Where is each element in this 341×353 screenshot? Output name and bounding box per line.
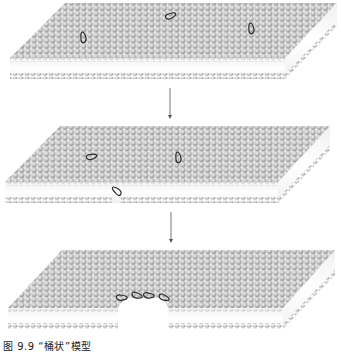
upper-leaflet-front bbox=[10, 58, 285, 62]
lower-leaflet-front bbox=[10, 73, 285, 79]
membrane-panel-stage-2 bbox=[5, 126, 330, 203]
arrow-down-icon bbox=[168, 88, 172, 119]
membrane-panel-stage-1 bbox=[10, 3, 337, 79]
lower-leaflet-front-right bbox=[120, 197, 278, 203]
lower-leaflet-front-right bbox=[166, 323, 283, 329]
figure-caption: 图 9.9 “桶状”模型 bbox=[3, 338, 92, 353]
upper-leaflet-surface bbox=[10, 3, 337, 58]
upper-leaflet-front bbox=[5, 182, 278, 186]
pore-opening bbox=[118, 298, 168, 329]
membrane-panel-stage-3 bbox=[8, 250, 335, 329]
lower-leaflet-front-left bbox=[8, 323, 120, 329]
upper-leaflet-surface bbox=[8, 250, 335, 308]
arrow-down-icon bbox=[169, 212, 173, 243]
lower-leaflet-front-left bbox=[5, 197, 112, 203]
upper-leaflet-surface bbox=[5, 126, 330, 182]
